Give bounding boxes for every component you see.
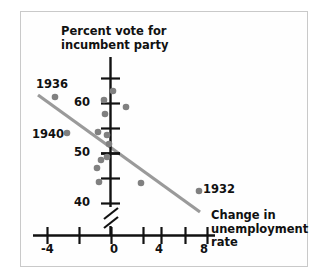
data-point <box>123 104 130 111</box>
x-tick-label-minus4: -4 <box>41 243 54 257</box>
data-point <box>106 141 113 148</box>
annotation-1940: 1940 <box>32 128 64 142</box>
data-point <box>104 132 111 139</box>
data-point <box>101 97 108 104</box>
y-tick-label-40: 40 <box>74 196 90 210</box>
x-tick-label-8: 8 <box>200 243 208 257</box>
data-point <box>52 94 59 101</box>
x-axis-title: Change in unemployment rate <box>211 209 308 250</box>
axis-break-icon <box>104 208 118 228</box>
data-point <box>94 165 101 172</box>
x-tick-label-4: 4 <box>155 243 163 257</box>
y-axis-title: Percent vote for incumbent party <box>61 25 169 52</box>
data-point <box>110 88 117 95</box>
x-tick-label-0: 0 <box>110 243 118 257</box>
data-point <box>196 188 203 195</box>
data-point <box>98 157 105 164</box>
scatter-plot-figure: Percent vote for incumbent party Change … <box>0 0 328 278</box>
data-point <box>138 180 145 187</box>
x-axis-group <box>33 227 215 244</box>
data-point <box>102 111 109 118</box>
annotation-1932: 1932 <box>203 183 235 197</box>
data-point <box>95 129 102 136</box>
data-point <box>96 179 103 186</box>
y-tick-label-60: 60 <box>74 96 90 110</box>
data-point <box>64 130 71 137</box>
data-point <box>104 154 111 161</box>
annotation-1936: 1936 <box>36 78 68 92</box>
y-tick-label-50: 50 <box>74 146 90 160</box>
